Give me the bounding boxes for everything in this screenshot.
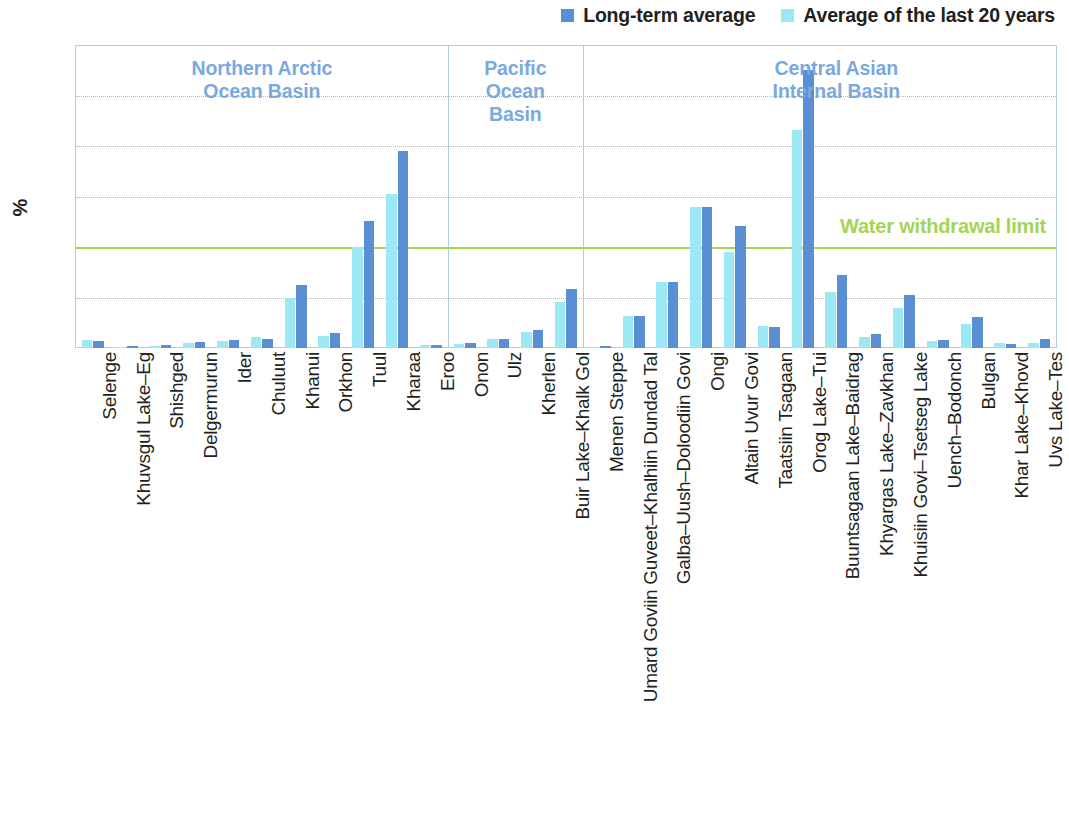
x-tick-label: Ulz bbox=[504, 352, 526, 379]
bar-long-term bbox=[330, 333, 341, 348]
x-tick-label: Uench–Bodonch bbox=[944, 352, 966, 489]
bar-last-20-years bbox=[589, 347, 600, 349]
bar-group bbox=[988, 45, 1022, 348]
bar-last-20-years bbox=[352, 247, 363, 348]
bar-last-20-years bbox=[149, 346, 160, 348]
bar-last-20-years bbox=[690, 207, 701, 348]
x-tick-label: Menen Steppe bbox=[606, 352, 628, 472]
legend-swatch-last-20-years bbox=[781, 9, 794, 22]
x-tick-label: Khyargas Lake–Zavkhan bbox=[876, 352, 898, 556]
bar-group bbox=[76, 45, 110, 348]
basin-northern-arctic-line-2: Ocean Basin bbox=[132, 80, 392, 103]
bar-last-20-years bbox=[116, 347, 127, 349]
bar-long-term bbox=[803, 70, 814, 348]
bar-long-term bbox=[702, 207, 713, 348]
basin-pacific-line-3: Basin bbox=[385, 103, 645, 126]
x-tick-label: Umard Goviin Guveet–Khalhiin Dundad Tal bbox=[640, 352, 662, 702]
bar-last-20-years bbox=[487, 339, 498, 348]
basin-pacific: PacificOceanBasin bbox=[385, 57, 645, 126]
bar-long-term bbox=[904, 295, 915, 348]
legend-item-last-20-years: Average of the last 20 years bbox=[781, 4, 1055, 27]
bar-last-20-years bbox=[859, 337, 870, 348]
x-tick-label: Khuvsgul Lake–Eg bbox=[133, 352, 155, 506]
y-axis-title: % bbox=[9, 199, 32, 217]
bar-last-20-years bbox=[251, 337, 262, 348]
bar-long-term bbox=[127, 346, 138, 348]
bar-last-20-years bbox=[420, 345, 431, 348]
bar-last-20-years bbox=[961, 324, 972, 348]
x-tick-label: Ider bbox=[234, 352, 256, 384]
basin-northern-arctic: Northern ArcticOcean Basin bbox=[132, 57, 392, 103]
bar-long-term bbox=[600, 346, 611, 348]
x-tick-label: Buuntsagaan Lake–Baidrag bbox=[842, 352, 864, 579]
x-tick-label: Onon bbox=[471, 352, 493, 397]
bar-long-term bbox=[229, 340, 240, 348]
bar-long-term bbox=[262, 339, 273, 348]
x-tick-label: Taatsiin Tsagaan bbox=[775, 352, 797, 488]
bar-group bbox=[1022, 45, 1056, 348]
bar-last-20-years bbox=[927, 341, 938, 348]
bar-last-20-years bbox=[825, 292, 836, 348]
bar-long-term bbox=[499, 339, 510, 348]
x-tick-label: Buir Lake–Khalk Gol bbox=[572, 352, 594, 520]
bar-last-20-years bbox=[454, 344, 465, 348]
bar-long-term bbox=[93, 341, 104, 348]
basin-central-asian-line-2: Internal Basin bbox=[706, 80, 966, 103]
x-tick-label: Tuul bbox=[369, 352, 391, 387]
bar-last-20-years bbox=[1028, 343, 1039, 348]
bar-long-term bbox=[431, 345, 442, 348]
bar-long-term bbox=[465, 343, 476, 348]
x-tick-label: Ongi bbox=[707, 352, 729, 391]
x-tick-label: Kharaa bbox=[403, 352, 425, 411]
bar-long-term bbox=[566, 289, 577, 348]
x-tick-label: Chuluut bbox=[268, 352, 290, 415]
bar-last-20-years bbox=[792, 130, 803, 348]
bar-last-20-years bbox=[217, 341, 228, 348]
basin-central-asian-line-1: Central Asian bbox=[706, 57, 966, 80]
bar-long-term bbox=[634, 316, 645, 348]
bar-long-term bbox=[398, 151, 409, 348]
bar-last-20-years bbox=[724, 252, 735, 348]
bar-last-20-years bbox=[656, 282, 667, 348]
bar-long-term bbox=[938, 340, 949, 348]
bar-long-term bbox=[871, 334, 882, 348]
legend-swatch-long-term bbox=[561, 9, 574, 22]
bar-last-20-years bbox=[555, 302, 566, 348]
bar-last-20-years bbox=[318, 336, 329, 348]
bar-group bbox=[650, 45, 684, 348]
bar-long-term bbox=[668, 282, 679, 348]
bar-last-20-years bbox=[623, 316, 634, 348]
bar-long-term bbox=[364, 221, 375, 348]
basin-central-asian: Central AsianInternal Basin bbox=[706, 57, 966, 103]
bar-long-term bbox=[837, 275, 848, 348]
bar-last-20-years bbox=[82, 340, 93, 348]
bar-long-term bbox=[735, 226, 746, 348]
bar-last-20-years bbox=[994, 343, 1005, 348]
bar-long-term bbox=[533, 330, 544, 348]
bar-long-term bbox=[1006, 344, 1017, 348]
x-tick-label: Shishged bbox=[166, 352, 188, 429]
x-tick-label: Kherlen bbox=[538, 352, 560, 415]
basin-pacific-line-1: Pacific bbox=[385, 57, 645, 80]
bar-last-20-years bbox=[893, 308, 904, 348]
x-tick-label: Orkhon bbox=[335, 352, 357, 413]
x-tick-label: Khuisiin Govi–Tsetseg Lake bbox=[910, 352, 932, 578]
x-tick-label: Bulgan bbox=[978, 352, 1000, 409]
bar-last-20-years bbox=[183, 343, 194, 348]
legend-label-last-20-years: Average of the last 20 years bbox=[803, 4, 1055, 27]
x-tick-label: Selenge bbox=[99, 352, 121, 420]
x-axis-labels: SelengeKhuvsgul Lake–EgShishgedDelgermur… bbox=[75, 352, 1055, 812]
legend-label-long-term: Long-term average bbox=[583, 4, 755, 27]
bar-long-term bbox=[769, 327, 780, 348]
x-tick-label: Orog Lake–Tui bbox=[809, 352, 831, 473]
bar-last-20-years bbox=[521, 332, 532, 348]
bar-long-term bbox=[1040, 339, 1051, 348]
x-tick-label: Galba–Uush–Doloodiin Govi bbox=[673, 352, 695, 584]
bar-long-term bbox=[972, 317, 983, 348]
bar-long-term bbox=[161, 345, 172, 348]
basin-pacific-line-2: Ocean bbox=[385, 80, 645, 103]
x-tick-label: Eroo bbox=[437, 352, 459, 391]
x-tick-label: Khanui bbox=[302, 352, 324, 409]
legend-item-long-term: Long-term average bbox=[561, 4, 755, 27]
x-tick-label: Uvs Lake–Tes bbox=[1045, 352, 1067, 468]
